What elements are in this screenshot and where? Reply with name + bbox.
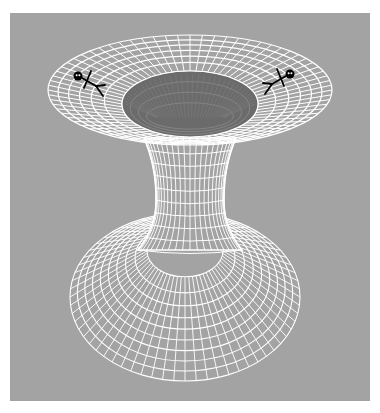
wormhole-throat [138, 138, 242, 254]
throat-opening [122, 71, 258, 137]
wormhole-illustration [0, 0, 380, 413]
left-person-icon [74, 71, 106, 96]
